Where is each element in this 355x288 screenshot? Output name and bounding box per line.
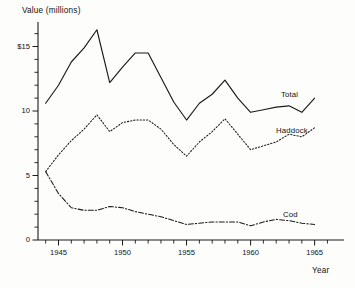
y-axis-title: Value (millions) [22,6,81,15]
y-axis-tick-label: 10 [2,106,30,115]
x-axis-tick-label: 1950 [103,248,143,257]
x-axis-tick-label: 1945 [38,248,78,257]
x-axis-tick-label: 1965 [295,248,335,257]
series-label-total: Total [281,90,298,99]
series-label-cod: Cod [283,210,298,219]
series-line-haddock [46,115,315,172]
chart-figure: Value (millions) Year 0510$15 1945195019… [0,0,355,288]
y-axis-tick-label: $15 [2,42,30,51]
x-axis-tick-label: 1960 [231,248,271,257]
y-axis-tick-label: 5 [2,171,30,180]
series-label-haddock: Haddock [276,126,308,135]
chart-series [46,30,315,226]
y-axis-tick-label: 0 [2,235,30,244]
x-axis-title: Year [312,266,329,275]
series-line-total [46,30,315,120]
series-line-cod [46,172,315,226]
x-axis-tick-label: 1955 [167,248,207,257]
chart-plot-area [0,0,355,288]
